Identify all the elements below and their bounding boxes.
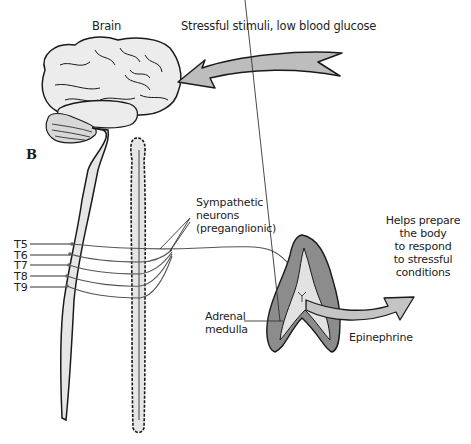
adrenal-line2: medulla xyxy=(205,323,248,336)
adrenal-gland xyxy=(267,235,340,352)
sympathetic-line3: (preganglionic) xyxy=(196,222,276,235)
stimuli-label: Stressful stimuli, low blood glucose xyxy=(181,20,376,33)
outcome-line2: the body xyxy=(382,227,464,240)
segment-label-t9: T9 xyxy=(14,281,28,294)
outcome-line4: to stressful xyxy=(382,253,464,266)
brain-label: Brain xyxy=(92,20,121,33)
outcome-line5: conditions xyxy=(382,266,464,279)
outcome-label: Helps prepare the body to respond to str… xyxy=(382,214,464,279)
preganglionic-neurons xyxy=(67,244,302,298)
epinephrine-label: Epinephrine xyxy=(349,331,413,344)
adrenal-pointer xyxy=(245,0,280,321)
sympathetic-line2: neurons xyxy=(196,209,276,222)
sympathetic-pointer xyxy=(160,218,190,251)
stimuli-arrow xyxy=(178,52,342,88)
adrenal-line1: Adrenal xyxy=(205,310,248,323)
segment-lines xyxy=(30,244,72,287)
outcome-line3: to respond xyxy=(382,240,464,253)
outcome-line1: Helps prepare xyxy=(382,214,464,227)
adrenal-medulla-label: Adrenal medulla xyxy=(205,310,248,336)
panel-label: B xyxy=(26,147,37,162)
sympathetic-line1: Sympathetic xyxy=(196,196,276,209)
brain-illustration xyxy=(42,37,181,420)
sympathetic-neurons-label: Sympathetic neurons (preganglionic) xyxy=(196,196,276,235)
